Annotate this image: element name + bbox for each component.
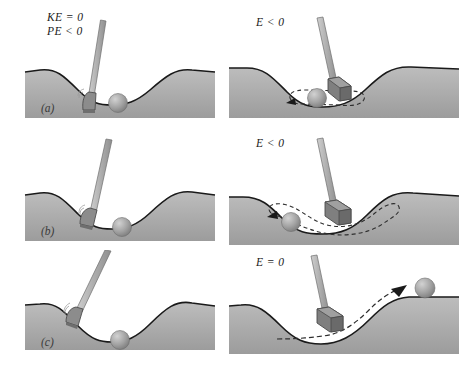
golf-club-c-left	[64, 250, 111, 329]
panel-c-right: E = 0	[229, 250, 459, 369]
part-label-c: (c)	[41, 336, 54, 348]
energy-label-e-3: E = 0	[256, 256, 284, 268]
golf-club-a-right	[317, 17, 351, 101]
panel-a-right: E < 0	[229, 0, 459, 125]
energy-label-e-1: E < 0	[256, 16, 284, 28]
trajectory-arrow-c-right	[391, 285, 407, 297]
physics-figure: KE = 0 PE < 0 (a)	[0, 0, 459, 369]
golf-club-c-right	[311, 255, 343, 332]
club-head-a-left	[83, 92, 96, 110]
energy-label-e-2: E < 0	[256, 137, 284, 149]
part-label-b: (b)	[41, 225, 54, 237]
golf-ball-b-right	[282, 213, 301, 232]
terrain-c-right	[229, 297, 459, 354]
energy-label-ke: KE = 0	[47, 11, 83, 23]
club-head-b-left	[80, 208, 97, 227]
panel-b-right: E < 0	[229, 125, 459, 250]
panel-a-left-graphic	[0, 0, 229, 125]
golf-club-b-left	[79, 139, 112, 230]
golf-ball-b-left	[113, 218, 132, 237]
part-label-a: (a)	[41, 102, 54, 114]
panel-c-left: (c)	[0, 250, 229, 369]
golf-ball-c-left	[111, 331, 130, 350]
panel-a-left: KE = 0 PE < 0 (a)	[0, 0, 229, 125]
golf-ball-a-right	[308, 89, 327, 108]
golf-ball-a-left	[109, 94, 128, 113]
panel-c-left-graphic	[0, 250, 229, 369]
panel-b-left: (b)	[0, 125, 229, 250]
panel-b-left-graphic	[0, 125, 229, 250]
golf-club-b-right	[317, 138, 351, 225]
energy-label-pe: PE < 0	[47, 25, 83, 37]
golf-ball-c-right	[415, 278, 435, 298]
